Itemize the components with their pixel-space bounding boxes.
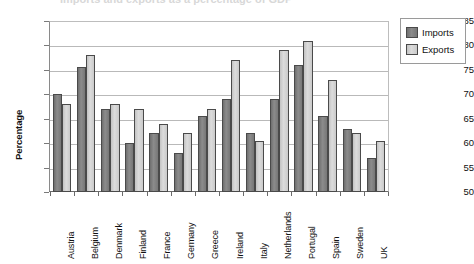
bar-group [122, 21, 146, 192]
bar-denmark-exports[interactable] [110, 104, 119, 192]
bar-group [243, 21, 267, 192]
x-tick-mark [122, 192, 123, 196]
bar-chart: Imports and exports as a percentage of G… [0, 0, 474, 264]
x-tick-mark [98, 192, 99, 196]
y-tick-label-50: 50 [440, 187, 474, 197]
bar-group [219, 21, 243, 192]
y-axis-title-text: Percentage [13, 110, 24, 160]
bar-belgium-imports[interactable] [77, 67, 86, 192]
bar-spain-exports[interactable] [328, 80, 337, 192]
bar-finland-exports[interactable] [134, 109, 143, 192]
y-tick-mark-50 [44, 192, 49, 193]
bar-austria-exports[interactable] [62, 104, 71, 192]
x-tick-mark [171, 192, 172, 196]
bars-layer [50, 21, 388, 192]
bar-group [291, 21, 315, 192]
bar-italy-imports[interactable] [246, 133, 255, 192]
x-tick-mark [388, 192, 389, 196]
bar-uk-imports[interactable] [367, 158, 376, 192]
bar-greece-exports[interactable] [207, 109, 216, 192]
bar-austria-imports[interactable] [53, 94, 62, 192]
x-category-label-uk: UK [364, 199, 426, 261]
bar-sweden-imports[interactable] [343, 129, 352, 193]
x-tick-mark [243, 192, 244, 196]
legend-label-imports: Imports [422, 27, 454, 38]
x-tick-mark [364, 192, 365, 196]
bar-portugal-exports[interactable] [303, 41, 312, 192]
bar-ireland-imports[interactable] [222, 99, 231, 192]
legend: Imports Exports [400, 18, 466, 64]
legend-swatch-exports-icon [406, 44, 418, 55]
bar-spain-imports[interactable] [318, 116, 327, 192]
x-tick-mark [291, 192, 292, 196]
bar-italy-exports[interactable] [255, 141, 264, 192]
bar-belgium-exports[interactable] [86, 55, 95, 192]
legend-item-exports: Exports [406, 41, 461, 58]
bar-greece-imports[interactable] [198, 116, 207, 192]
bar-denmark-imports[interactable] [101, 109, 110, 192]
x-category-label-text: UK [379, 247, 389, 259]
bar-france-exports[interactable] [159, 124, 168, 192]
y-tick-label-70: 70 [440, 89, 474, 99]
legend-label-exports: Exports [422, 44, 454, 55]
bar-group [267, 21, 291, 192]
bar-germany-exports[interactable] [183, 133, 192, 192]
x-tick-mark [195, 192, 196, 196]
x-tick-mark [147, 192, 148, 196]
bar-group [316, 21, 340, 192]
x-tick-mark [340, 192, 341, 196]
bar-group [50, 21, 74, 192]
x-tick-mark [74, 192, 75, 196]
y-tick-label-75: 75 [440, 65, 474, 75]
bar-group [147, 21, 171, 192]
bar-france-imports[interactable] [149, 133, 158, 192]
bar-ireland-exports[interactable] [231, 60, 240, 192]
bar-uk-exports[interactable] [376, 141, 385, 192]
bar-sweden-exports[interactable] [352, 133, 361, 192]
chart-title-cropped: Imports and exports as a percentage of G… [0, 0, 474, 8]
bar-netherlands-exports[interactable] [279, 50, 288, 192]
y-axis-title: Percentage [0, 42, 16, 160]
bar-finland-imports[interactable] [125, 143, 134, 192]
y-tick-label-60: 60 [440, 138, 474, 148]
bar-group [171, 21, 195, 192]
bar-group [98, 21, 122, 192]
bar-group [74, 21, 98, 192]
x-tick-mark [219, 192, 220, 196]
y-tick-label-65: 65 [440, 114, 474, 124]
bar-netherlands-imports[interactable] [270, 99, 279, 192]
y-tick-label-55: 55 [440, 163, 474, 173]
bar-group [364, 21, 388, 192]
x-tick-mark [267, 192, 268, 196]
legend-item-imports: Imports [406, 24, 461, 41]
bar-group [340, 21, 364, 192]
bar-germany-imports[interactable] [174, 153, 183, 192]
bar-portugal-imports[interactable] [294, 65, 303, 192]
x-tick-mark [316, 192, 317, 196]
chart-title-text: Imports and exports as a percentage of G… [60, 0, 292, 5]
legend-swatch-imports-icon [406, 27, 418, 38]
bar-group [195, 21, 219, 192]
x-tick-mark [50, 192, 51, 196]
